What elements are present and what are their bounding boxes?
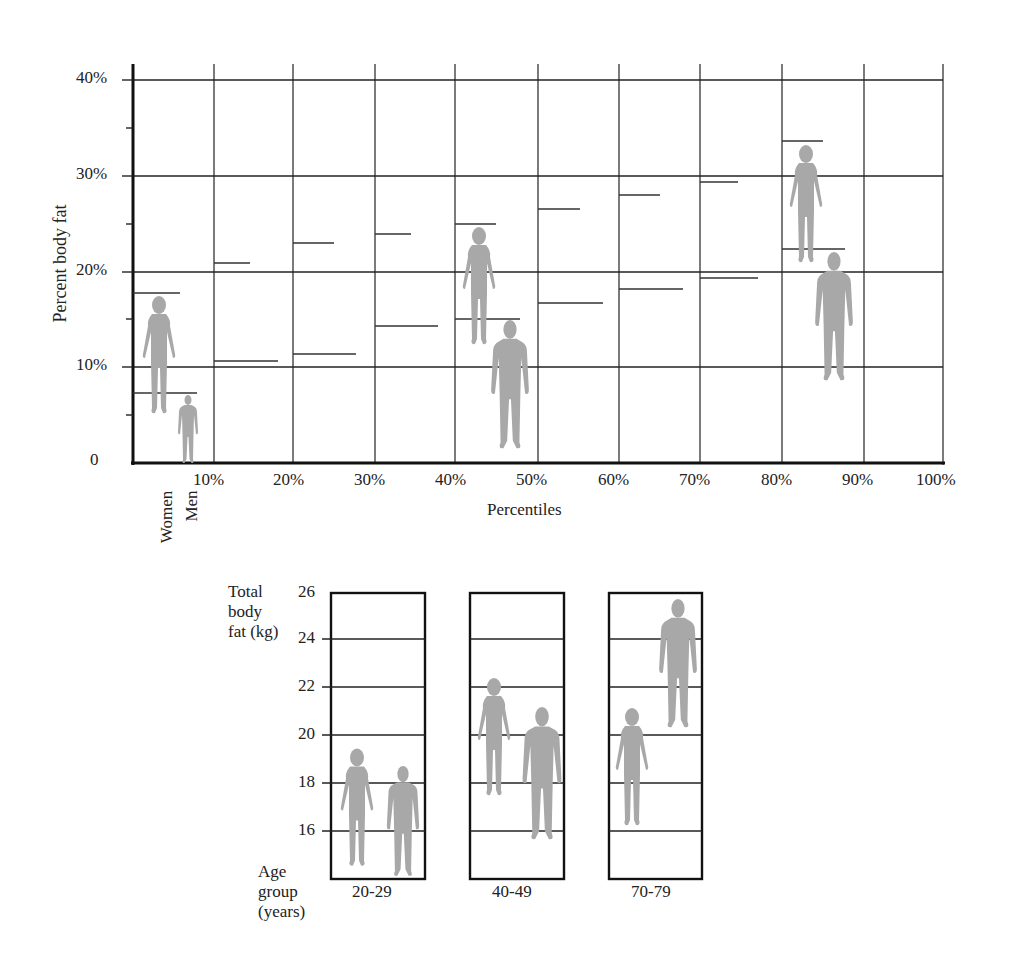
top-silhouettes [143, 145, 853, 463]
bottom-y-label-line3: fat (kg) [228, 622, 279, 642]
bottom-y-label-line2: body [228, 602, 262, 622]
bottom-y-tick-24: 24 [298, 628, 315, 648]
top-x-tick-40: 40% [435, 470, 466, 490]
top-chart [122, 64, 945, 465]
top-x-tick-70: 70% [679, 470, 710, 490]
top-y-tick-10: 10% [76, 355, 107, 375]
top-y-axis-label: Percent body fat [50, 184, 71, 344]
top-x-tick-20: 20% [273, 470, 304, 490]
bottom-y-tick-20: 20 [298, 724, 315, 744]
man-silhouette-icon [815, 252, 853, 380]
bottom-x-label-line3: (years) [258, 902, 305, 922]
age-group-70-79: 70-79 [631, 882, 671, 902]
legend-men: Men [182, 481, 202, 531]
legend-women: Women [157, 482, 177, 552]
bottom-x-label-line1: Age [258, 862, 286, 882]
man-silhouette-icon [178, 395, 198, 463]
bottom-y-tick-22: 22 [298, 676, 315, 696]
bottom-y-tick-18: 18 [298, 772, 315, 792]
man-silhouette-icon [523, 707, 562, 839]
man-silhouette-icon [659, 599, 697, 727]
panel-40-49 [470, 593, 564, 879]
woman-silhouette-icon [341, 749, 374, 866]
top-x-tick-100: 100% [916, 470, 956, 490]
woman-silhouette-icon [143, 296, 176, 413]
woman-silhouette-icon [616, 708, 649, 825]
bottom-y-tick-26: 26 [298, 582, 315, 602]
top-x-tick-90: 90% [842, 470, 873, 490]
woman-silhouette-icon [478, 678, 511, 795]
top-y-tick-30: 30% [76, 164, 107, 184]
top-y-tick-0: 0 [90, 450, 99, 470]
panel-70-79 [609, 593, 702, 879]
top-x-tick-50: 50% [516, 470, 547, 490]
top-x-tick-80: 80% [761, 470, 792, 490]
bottom-x-label-line2: group [258, 882, 298, 902]
bottom-y-tick-16: 16 [298, 820, 315, 840]
panel-20-29 [322, 593, 425, 879]
top-y-ticks [122, 80, 133, 415]
woman-silhouette-icon [463, 227, 496, 344]
bottom-chart [322, 593, 702, 879]
top-x-tick-60: 60% [598, 470, 629, 490]
man-silhouette-icon [491, 320, 529, 448]
age-group-40-49: 40-49 [492, 882, 532, 902]
top-x-axis-label: Percentiles [487, 500, 562, 520]
bottom-y-label-line1: Total [228, 582, 263, 602]
woman-silhouette-icon [790, 145, 823, 262]
age-group-20-29: 20-29 [352, 882, 392, 902]
top-x-tick-30: 30% [354, 470, 385, 490]
top-y-tick-20: 20% [76, 260, 107, 280]
top-y-tick-40: 40% [76, 68, 107, 88]
